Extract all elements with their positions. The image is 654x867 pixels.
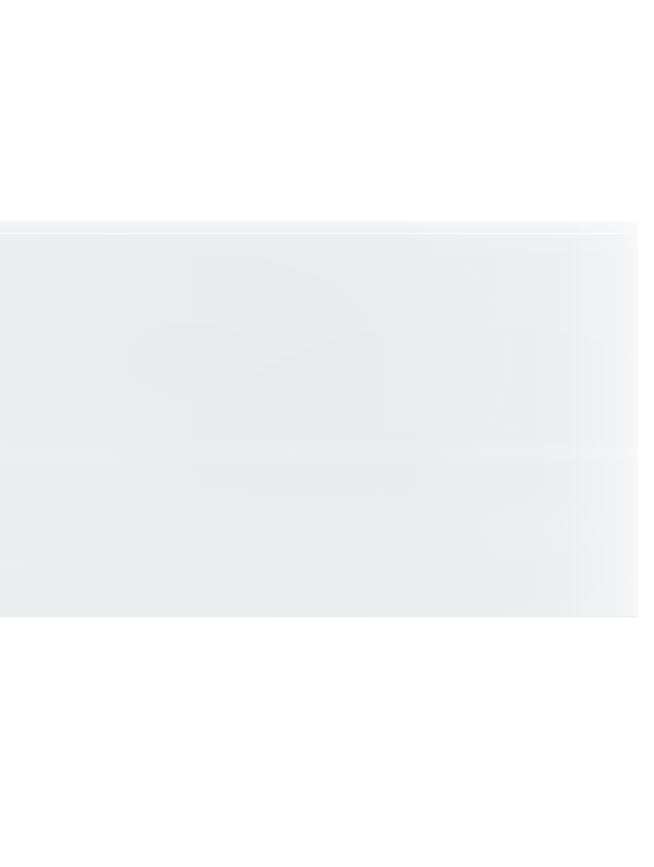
- page-margin-bottom: [0, 618, 654, 867]
- page-margin-top: [0, 0, 654, 220]
- scan-region: [0, 220, 640, 618]
- page-margin-right: [638, 220, 654, 618]
- scanned-page: [0, 0, 654, 867]
